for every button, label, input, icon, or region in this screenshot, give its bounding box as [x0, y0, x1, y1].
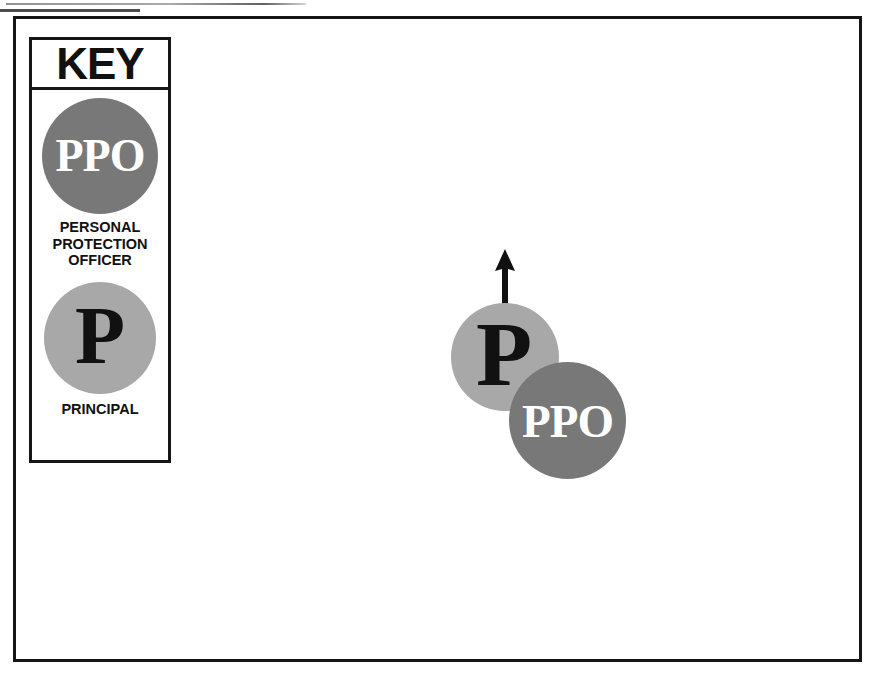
legend-title: KEY	[56, 42, 143, 86]
scan-artifact-line-secondary	[0, 9, 140, 12]
legend-symbol-principal-circle: P	[44, 282, 156, 394]
legend-caption-ppo-line-3: OFFICER	[52, 252, 147, 269]
legend-title-cell: KEY	[32, 40, 168, 90]
formation-unit-ppo-label: PPO	[522, 398, 613, 445]
legend-body: PPO PERSONAL PROTECTION OFFICER P PR	[32, 90, 168, 417]
legend-entry-ppo: PPO PERSONAL PROTECTION OFFICER	[42, 98, 158, 269]
legend-caption-principal-line-1: PRINCIPAL	[61, 401, 138, 418]
legend-key-box: KEY PPO PERSONAL PROTECTION OFFICER	[29, 37, 171, 463]
legend-caption-ppo: PERSONAL PROTECTION OFFICER	[52, 219, 147, 269]
diagram-page: KEY PPO PERSONAL PROTECTION OFFICER	[0, 0, 877, 682]
legend-caption-ppo-line-2: PROTECTION	[52, 236, 147, 253]
diagram-frame: KEY PPO PERSONAL PROTECTION OFFICER	[13, 16, 862, 662]
legend-caption-ppo-line-1: PERSONAL	[52, 219, 147, 236]
formation-unit-ppo: PPO	[509, 362, 626, 479]
legend-symbol-principal-label: P	[75, 295, 125, 377]
scan-artifact-line	[6, 3, 306, 5]
legend-symbol-ppo-label: PPO	[56, 133, 145, 179]
legend-symbol-ppo-circle: PPO	[42, 98, 158, 214]
legend-caption-principal: PRINCIPAL	[61, 401, 138, 418]
legend-entry-principal: P PRINCIPAL	[44, 282, 156, 418]
